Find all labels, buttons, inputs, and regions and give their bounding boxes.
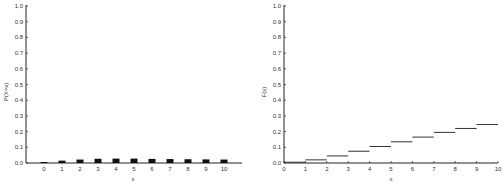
bar <box>221 160 228 163</box>
y-tick-label: 0.3 <box>15 113 24 119</box>
bar <box>203 159 210 163</box>
x-tick-label: 3 <box>347 166 351 172</box>
x-axis: 012345678910 <box>282 161 502 172</box>
x-tick-label: 7 <box>168 166 172 172</box>
x-tick-label: 4 <box>114 166 118 172</box>
y-tick-label: 0.4 <box>15 97 24 103</box>
x-tick-label: 2 <box>325 166 329 172</box>
y-tick-label: 0.2 <box>273 129 282 135</box>
y-axis: 0.00.10.20.30.40.50.60.70.80.91.0 <box>273 3 286 166</box>
x-tick-label: 0 <box>282 166 286 172</box>
y-tick-label: 0.6 <box>273 66 282 72</box>
x-tick-label: 6 <box>411 166 415 172</box>
y-tick-label: 0.1 <box>15 144 24 150</box>
x-tick-label: 0 <box>42 166 46 172</box>
x-tick-label: 1 <box>60 166 64 172</box>
x-tick-label: 3 <box>96 166 100 172</box>
bars <box>41 159 228 163</box>
x-tick-label: 5 <box>389 166 393 172</box>
x-tick-label: 1 <box>304 166 308 172</box>
y-axis: 0.00.10.20.30.40.50.60.70.80.91.0 <box>15 3 28 166</box>
y-tick-label: 0.8 <box>15 34 24 40</box>
y-tick-label: 0.0 <box>273 160 282 166</box>
bar <box>41 162 48 163</box>
x-tick-label: 2 <box>78 166 82 172</box>
x-tick-label: 10 <box>221 166 228 172</box>
y-tick-label: 0.7 <box>273 50 282 56</box>
bar <box>113 159 120 163</box>
step-lines <box>284 125 498 163</box>
x-tick-label: 4 <box>368 166 372 172</box>
x-axis-label: x <box>132 176 135 182</box>
y-tick-label: 0.9 <box>273 19 282 25</box>
x-tick-label: 7 <box>432 166 436 172</box>
y-axis-label: P(X=x) <box>3 83 9 102</box>
x-tick-label: 5 <box>132 166 136 172</box>
x-tick-label: 10 <box>495 166 502 172</box>
pmf-bar-chart: 0.00.10.20.30.40.50.60.70.80.91.0 012345… <box>0 0 252 184</box>
bar <box>95 159 102 163</box>
y-tick-label: 0.5 <box>273 82 282 88</box>
y-tick-label: 0.9 <box>15 19 24 25</box>
y-axis-label: F(x) <box>261 87 267 98</box>
y-tick-label: 0.7 <box>15 50 24 56</box>
y-tick-label: 1.0 <box>15 3 24 9</box>
bar <box>77 160 84 163</box>
y-tick-label: 0.2 <box>15 129 24 135</box>
x-axis: 012345678910 <box>26 163 242 172</box>
y-tick-label: 0.1 <box>273 144 282 150</box>
x-tick-label: 6 <box>150 166 154 172</box>
x-tick-label: 8 <box>186 166 190 172</box>
x-tick-label: 9 <box>204 166 208 172</box>
bar <box>185 159 192 163</box>
cdf-step-chart: 0.00.10.20.30.40.50.60.70.80.91.0 012345… <box>252 0 503 184</box>
y-tick-label: 0.8 <box>273 34 282 40</box>
x-axis-label: x <box>390 176 393 182</box>
y-tick-label: 0.6 <box>15 66 24 72</box>
y-tick-label: 1.0 <box>273 3 282 9</box>
bar <box>59 161 66 163</box>
x-tick-label: 8 <box>454 166 458 172</box>
x-tick-label: 9 <box>475 166 479 172</box>
bar <box>131 159 138 163</box>
bar <box>167 159 174 163</box>
y-tick-label: 0.0 <box>15 160 24 166</box>
y-tick-label: 0.3 <box>273 113 282 119</box>
y-tick-label: 0.5 <box>15 82 24 88</box>
bar <box>149 159 156 163</box>
y-tick-label: 0.4 <box>273 97 282 103</box>
